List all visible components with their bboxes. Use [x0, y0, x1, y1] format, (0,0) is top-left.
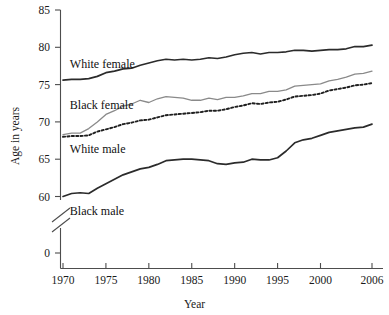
y-axis-title: Age in years	[9, 96, 21, 176]
y-tick-label-70: 70	[39, 116, 51, 128]
x-tick-label-2006: 2006	[361, 274, 384, 286]
series-label-black-female: Black female	[70, 98, 134, 112]
series-label-white-female: White female	[70, 57, 135, 71]
x-axis-ticks	[63, 263, 372, 269]
life-expectancy-line-chart: 85 80 75 70 65 60 0 19701975198019851990…	[0, 0, 389, 315]
y-tick-label-65: 65	[39, 153, 51, 165]
y-tick-label-60: 60	[39, 191, 51, 203]
chart-plot-area: 85 80 75 70 65 60 0 19701975198019851990…	[0, 0, 389, 315]
x-tick-label-1990: 1990	[223, 274, 246, 286]
x-axis-tick-labels: 19701975198019851990199520002006	[52, 274, 384, 286]
y-tick-label-zero: 0	[44, 247, 50, 259]
x-tick-label-1985: 1985	[180, 274, 203, 286]
y-tick-label-80: 80	[39, 41, 51, 53]
x-tick-label-1970: 1970	[52, 274, 75, 286]
x-tick-label-2000: 2000	[309, 274, 332, 286]
y-tick-label-85: 85	[39, 4, 51, 16]
x-tick-label-1975: 1975	[94, 274, 117, 286]
series-label-black-male: Black male	[70, 204, 124, 218]
series-line-black-male	[63, 124, 372, 196]
x-tick-label-1980: 1980	[137, 274, 160, 286]
chart-series-labels: White femaleBlack femaleWhite maleBlack …	[70, 57, 135, 218]
x-axis-title: Year	[0, 298, 389, 310]
y-tick-label-75: 75	[39, 79, 51, 91]
series-label-white-male: White male	[70, 142, 126, 156]
x-tick-label-1995: 1995	[266, 274, 289, 286]
